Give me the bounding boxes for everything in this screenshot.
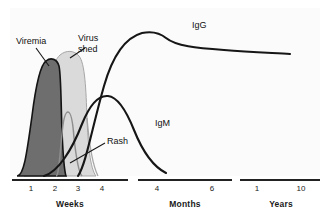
label-virus-shed-line2: shed xyxy=(78,44,98,54)
figure-root: Viremia Virus shed Rash IgM IgG 1 2 3 4 … xyxy=(0,0,328,221)
label-virus-shed-line1: Virus xyxy=(78,33,98,43)
tick-weeks-3: 3 xyxy=(71,184,85,193)
tick-years-1: 1 xyxy=(250,184,264,193)
tick-months-2: 6 xyxy=(205,184,219,193)
label-rash: Rash xyxy=(107,136,128,146)
axis-title-months: Months xyxy=(155,199,215,209)
tick-weeks-1: 1 xyxy=(24,184,38,193)
tick-years-2: 10 xyxy=(294,184,308,193)
tick-months-1: 4 xyxy=(150,184,164,193)
series-igg-curve xyxy=(78,32,290,176)
series-viremia-area xyxy=(17,59,66,176)
axis-title-years: Years xyxy=(252,199,310,209)
leader-line-viremia xyxy=(36,48,49,66)
tick-weeks-4: 4 xyxy=(95,184,109,193)
label-viremia: Viremia xyxy=(16,36,46,46)
label-igg: IgG xyxy=(192,20,207,30)
label-igm: IgM xyxy=(155,118,170,128)
tick-weeks-2: 2 xyxy=(48,184,62,193)
axis-title-weeks: Weeks xyxy=(40,199,100,209)
